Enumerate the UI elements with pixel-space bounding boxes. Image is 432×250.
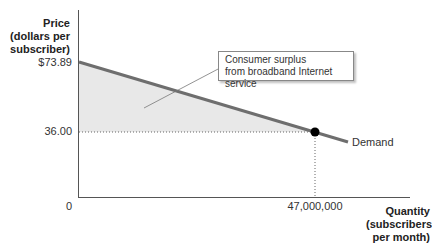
consumer-surplus-callout: Consumer surplus from broadband Internet…	[218, 51, 354, 81]
y-tick-high: $73.89	[20, 56, 72, 68]
x-axis-title-line: per month)	[366, 231, 430, 244]
x-tick-quantity: 47,000,000	[280, 200, 350, 212]
x-axis-title: Quantity (subscribers per month)	[366, 205, 430, 244]
x-tick-origin: 0	[62, 200, 72, 212]
callout-line: Consumer surplus	[225, 54, 353, 66]
equilibrium-point	[311, 128, 320, 137]
y-axis-title-line: Price	[2, 17, 70, 30]
demand-label: Demand	[352, 136, 394, 148]
y-axis-title-line: subscriber)	[2, 43, 70, 56]
callout-line: from broadband Internet service	[225, 66, 353, 90]
x-axis-title-line: (subscribers	[366, 218, 430, 231]
y-tick-low: 36.00	[20, 125, 72, 137]
y-axis-title-line: (dollars per	[2, 30, 70, 43]
y-axis-title: Price (dollars per subscriber)	[2, 17, 70, 56]
x-axis-title-line: Quantity	[366, 205, 430, 218]
